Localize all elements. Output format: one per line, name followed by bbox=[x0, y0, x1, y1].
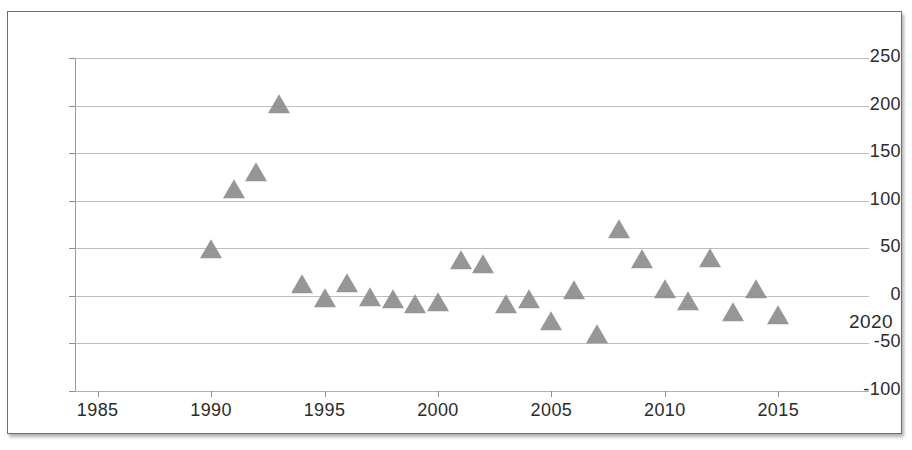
y-tick-mark bbox=[69, 153, 75, 154]
data-point-marker bbox=[699, 248, 721, 267]
data-point-marker bbox=[767, 305, 789, 324]
data-point-marker bbox=[382, 289, 404, 308]
x-axis-line bbox=[75, 391, 869, 392]
y-tick-label: 150 bbox=[848, 141, 901, 162]
x-tick-label: 2000 bbox=[417, 400, 459, 421]
y-tick-label: 50 bbox=[848, 236, 901, 257]
data-point-marker bbox=[268, 94, 290, 113]
x-tick-label: 1995 bbox=[304, 400, 346, 421]
y-tick-mark bbox=[69, 201, 75, 202]
y-tick-label: 100 bbox=[848, 189, 901, 210]
gridline bbox=[75, 201, 869, 202]
data-point-marker bbox=[563, 280, 585, 299]
data-point-marker bbox=[631, 249, 653, 268]
data-point-marker bbox=[450, 250, 472, 269]
data-point-marker bbox=[608, 219, 630, 238]
data-point-marker bbox=[223, 179, 245, 198]
data-point-marker bbox=[336, 274, 358, 293]
data-point-marker bbox=[427, 293, 449, 312]
x-tick-mark bbox=[211, 391, 212, 397]
gridline bbox=[75, 58, 869, 59]
data-point-marker bbox=[359, 287, 381, 306]
y-tick-mark bbox=[69, 391, 75, 392]
data-point-marker bbox=[291, 275, 313, 294]
x-tick-label: 2010 bbox=[644, 400, 686, 421]
y-tick-label: 200 bbox=[848, 94, 901, 115]
x-tick-mark bbox=[778, 391, 779, 397]
x-tick-mark bbox=[325, 391, 326, 397]
y-tick-label: -50 bbox=[848, 331, 901, 352]
plot-surface: 250200150100500-50-100 19851990199520002… bbox=[8, 12, 901, 433]
data-point-marker bbox=[472, 255, 494, 274]
data-point-marker bbox=[654, 279, 676, 298]
y-axis-line bbox=[75, 58, 76, 391]
y-tick-mark bbox=[69, 296, 75, 297]
data-point-marker bbox=[404, 295, 426, 314]
x-tick-mark bbox=[551, 391, 552, 397]
y-tick-mark bbox=[69, 343, 75, 344]
y-tick-label: -100 bbox=[848, 379, 901, 400]
data-point-marker bbox=[540, 312, 562, 331]
y-tick-label: 250 bbox=[848, 46, 901, 67]
x-tick-mark bbox=[98, 391, 99, 397]
data-point-marker bbox=[495, 295, 517, 314]
y-tick-mark bbox=[69, 58, 75, 59]
data-point-marker bbox=[518, 289, 540, 308]
gridline bbox=[75, 343, 869, 344]
data-point-marker bbox=[200, 239, 222, 258]
data-point-marker bbox=[677, 292, 699, 311]
x-tick-label: 1985 bbox=[77, 400, 119, 421]
data-point-marker bbox=[722, 302, 744, 321]
x-tick-mark bbox=[665, 391, 666, 397]
x-tick-mark bbox=[438, 391, 439, 397]
gridline bbox=[75, 248, 869, 249]
x-tick-label: 2005 bbox=[531, 400, 573, 421]
data-point-marker bbox=[314, 288, 336, 307]
data-point-marker bbox=[745, 279, 767, 298]
chart-frame: 250200150100500-50-100 19851990199520002… bbox=[7, 11, 902, 434]
y-tick-mark bbox=[69, 106, 75, 107]
data-point-marker bbox=[245, 162, 267, 181]
x-tick-label: 1990 bbox=[190, 400, 232, 421]
x-tick-label: 2015 bbox=[757, 400, 799, 421]
gridline bbox=[75, 106, 869, 107]
chart-annotation: 2020 bbox=[849, 311, 893, 333]
data-point-marker bbox=[586, 324, 608, 343]
y-tick-mark bbox=[69, 248, 75, 249]
gridline bbox=[75, 153, 869, 154]
y-tick-label: 0 bbox=[848, 284, 901, 305]
